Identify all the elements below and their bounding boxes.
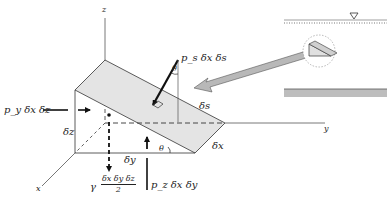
- dz-label: δz: [63, 127, 74, 137]
- weight-fraction: δx δy δz 2: [101, 175, 136, 194]
- weight-denominator: 2: [101, 185, 136, 194]
- ds-label: δs: [199, 101, 210, 111]
- theta-bottom-label: θ: [159, 145, 164, 153]
- py-force-label: p_y δx δz: [4, 105, 50, 115]
- z-axis-label: z: [102, 6, 106, 14]
- dx-label: δx: [212, 141, 224, 151]
- x-axis-label: x: [36, 185, 41, 193]
- theta-top-label: θ: [172, 65, 177, 73]
- dy-label: δy: [124, 155, 136, 165]
- y-axis-label: y: [324, 125, 329, 133]
- diagram-canvas: [0, 0, 392, 200]
- theta-arc-bottom: [168, 147, 170, 153]
- weight-numerator: δx δy δz: [101, 175, 136, 185]
- pz-force-label: p_z δx δy: [151, 180, 197, 190]
- x-axis: [42, 153, 75, 186]
- ps-force-label: p_s δx δs: [181, 53, 227, 63]
- centroid-dot: [107, 113, 111, 117]
- x-axis-hidden: [75, 123, 105, 153]
- inset-bottom-boundary: [284, 89, 387, 97]
- weight-gamma-label: γ: [90, 182, 96, 192]
- free-surface-symbol: [350, 13, 358, 19]
- theta-arc-top: [171, 73, 178, 74]
